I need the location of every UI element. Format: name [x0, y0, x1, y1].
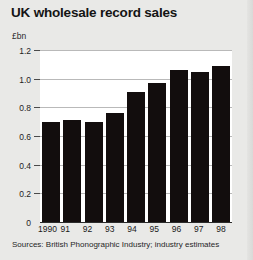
chart-title: UK wholesale record sales: [11, 5, 177, 20]
xtick-label-91: 91: [56, 224, 74, 238]
bar-1990: [42, 122, 60, 222]
bar-92: [85, 122, 103, 222]
x-axis-labels: 1990 91 92 93 94 95 96 97 98: [40, 224, 232, 238]
ytick-label-0.2: 0.2: [5, 189, 31, 199]
bar-95: [148, 83, 166, 222]
chart-figure: UK wholesale record sales £bn 1.2 1.0 0.…: [0, 0, 253, 260]
bar-96: [170, 70, 188, 222]
bar-98: [212, 66, 230, 222]
y-axis-unit-label: £bn: [12, 31, 26, 41]
bar-94: [127, 92, 145, 222]
x-axis-line: [40, 222, 232, 223]
ytick-label-0.8: 0.8: [5, 103, 31, 113]
page-right-edge-shading: [247, 0, 253, 260]
xtick-label-1990: 1990: [38, 224, 56, 238]
ytick-label-0: 0: [5, 218, 31, 228]
bar-93: [106, 113, 124, 222]
bar-91: [63, 120, 81, 222]
ytick-label-0.4: 0.4: [5, 161, 31, 171]
ytick-label-1.0: 1.0: [5, 75, 31, 85]
xtick-label-93: 93: [101, 224, 119, 238]
bar-97: [191, 72, 209, 223]
xtick-label-96: 96: [168, 224, 186, 238]
xtick-label-95: 95: [145, 224, 163, 238]
xtick-label-97: 97: [190, 224, 208, 238]
source-note: Sources: British Phonographic Industry; …: [12, 240, 219, 249]
ytick-label-0.6: 0.6: [5, 132, 31, 142]
xtick-label-98: 98: [212, 224, 230, 238]
ytick-label-1.2: 1.2: [5, 46, 31, 56]
xtick-label-94: 94: [123, 224, 141, 238]
bar-series: [40, 50, 232, 222]
xtick-label-92: 92: [79, 224, 97, 238]
